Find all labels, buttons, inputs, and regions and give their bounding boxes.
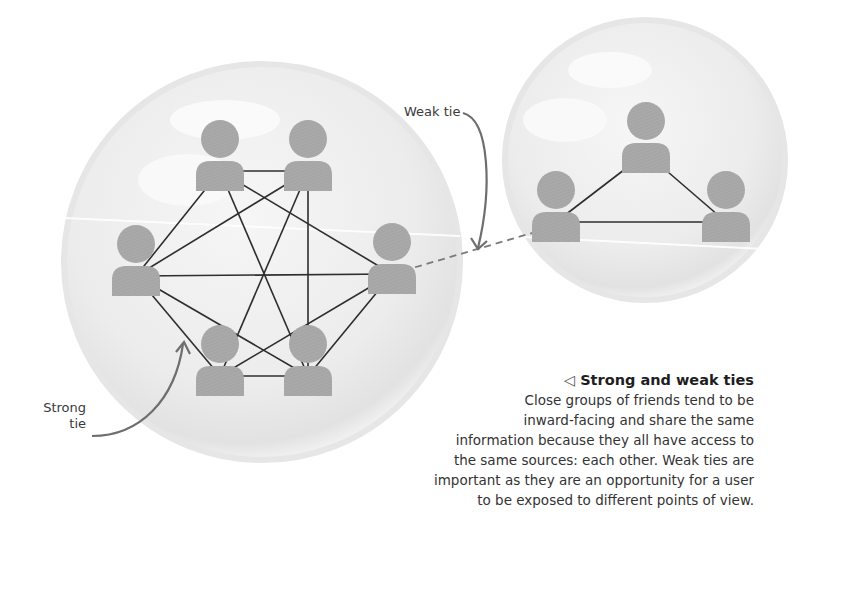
caption-line: important as they are an opportunity for… (354, 470, 754, 490)
caption-line: to be exposed to different points of vie… (354, 490, 754, 510)
caption-line: the same sources: each other. Weak ties … (354, 450, 754, 470)
person-head (537, 171, 575, 209)
person-head (707, 171, 745, 209)
caption-title: ◁Strong and weak ties (354, 370, 754, 390)
person-head (117, 225, 155, 263)
caption-title-text: Strong and weak ties (580, 372, 754, 388)
person-body (284, 366, 332, 396)
person-body (112, 266, 160, 296)
bubble-highlight (568, 52, 652, 88)
caption-marker-icon: ◁ (564, 372, 575, 388)
person-head (201, 325, 239, 363)
weak-tie-arrow (463, 113, 487, 248)
person-body (196, 161, 244, 191)
caption-line: Close groups of friends tend to be (354, 390, 754, 410)
person-body (702, 212, 750, 242)
person-body (622, 143, 670, 173)
person-head (627, 102, 665, 140)
person-head (289, 325, 327, 363)
caption-body: Close groups of friends tend to be inwar… (354, 390, 754, 510)
person-body (368, 264, 416, 294)
person-head (373, 223, 411, 261)
caption: ◁Strong and weak ties Close groups of fr… (354, 370, 754, 510)
person-head (201, 120, 239, 158)
person-head (289, 120, 327, 158)
strong-tie-label-line1: Strong (34, 400, 86, 416)
person-body (284, 161, 332, 191)
weak-tie-label: Weak tie (404, 104, 460, 120)
strong-tie-label-line2: tie (34, 416, 86, 432)
caption-line: information because they all have access… (354, 430, 754, 450)
person-body (196, 366, 244, 396)
bubble-highlight (523, 98, 607, 142)
person-body (532, 212, 580, 242)
caption-line: inward-facing and share the same (354, 410, 754, 430)
strong-tie-label: Strong tie (34, 400, 86, 432)
